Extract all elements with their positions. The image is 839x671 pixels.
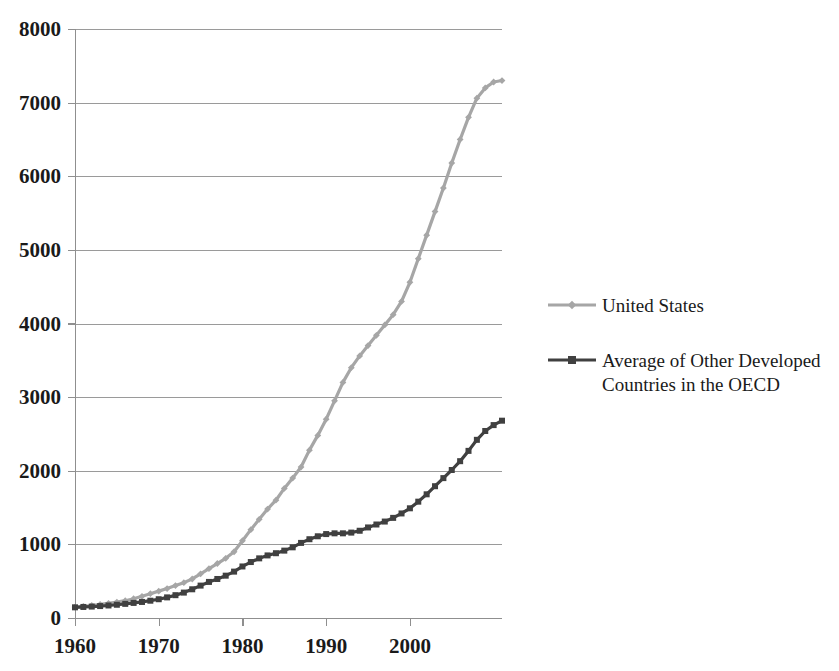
gridlines: [75, 30, 502, 545]
y-tick-label: 2000: [19, 459, 61, 483]
data-point-marker: [499, 418, 505, 424]
x-tick-label: 1990: [305, 634, 347, 658]
data-point-marker: [415, 499, 421, 505]
data-point-marker: [281, 548, 287, 554]
legend-item-united-states[interactable]: United States: [548, 295, 704, 316]
y-tick-label: 7000: [19, 91, 61, 115]
data-point-marker: [206, 579, 212, 585]
data-point-marker: [474, 437, 480, 443]
data-point-marker: [399, 510, 405, 516]
series-united-states: [72, 77, 506, 610]
data-point-marker: [499, 77, 506, 84]
data-point-marker: [189, 586, 195, 592]
data-point-marker: [214, 576, 220, 582]
legend-item-oecd-average[interactable]: Average of Other DevelopedCountries in t…: [548, 350, 821, 395]
data-point-marker: [139, 599, 145, 605]
data-point-marker: [265, 552, 271, 558]
data-point-marker: [223, 573, 229, 579]
legend-label: Countries in the OECD: [602, 374, 780, 395]
data-point-marker: [424, 491, 430, 497]
x-tick-label: 1980: [221, 634, 263, 658]
data-point-marker: [89, 604, 95, 610]
data-point-marker: [198, 583, 204, 589]
chart-legend: United StatesAverage of Other DevelopedC…: [548, 295, 821, 395]
legend-label: Average of Other Developed: [602, 350, 821, 371]
data-point-marker: [340, 530, 346, 536]
data-point-marker: [457, 458, 463, 464]
data-point-marker: [357, 528, 363, 534]
data-point-marker: [156, 596, 162, 602]
data-point-marker: [131, 600, 137, 606]
y-tick-label: 5000: [19, 238, 61, 262]
data-point-marker: [348, 530, 354, 536]
data-point-marker: [440, 475, 446, 481]
y-tick-label: 1000: [19, 532, 61, 556]
data-point-marker: [147, 598, 153, 604]
data-point-marker: [315, 533, 321, 539]
legend-swatch-marker: [568, 356, 576, 364]
data-point-marker: [105, 602, 111, 608]
y-tick-label: 8000: [19, 17, 61, 41]
series-line: [75, 81, 502, 608]
data-point-marker: [72, 604, 78, 610]
data-point-marker: [248, 559, 254, 565]
data-point-marker: [432, 483, 438, 489]
data-point-marker: [97, 603, 103, 609]
data-point-marker: [114, 602, 120, 608]
legend-swatch-marker: [568, 301, 576, 309]
data-point-marker: [256, 555, 262, 561]
data-point-marker: [181, 590, 187, 596]
data-point-marker: [365, 524, 371, 530]
data-point-marker: [290, 544, 296, 550]
data-point-marker: [407, 505, 413, 511]
data-point-marker: [466, 448, 472, 454]
y-axis-ticks: 010002000300040005000600070008000: [19, 17, 75, 630]
y-tick-label: 6000: [19, 164, 61, 188]
data-point-marker: [80, 604, 86, 610]
data-point-marker: [332, 530, 338, 536]
y-tick-label: 0: [51, 606, 62, 630]
x-axis-ticks: 19601970198019902000: [54, 618, 431, 658]
data-point-marker: [491, 422, 497, 428]
line-chart: 010002000300040005000600070008000 196019…: [0, 0, 839, 671]
data-series: [72, 77, 506, 610]
data-point-marker: [122, 601, 128, 607]
data-point-marker: [164, 594, 170, 600]
chart-page: 010002000300040005000600070008000 196019…: [0, 0, 839, 671]
data-point-marker: [390, 515, 396, 521]
data-point-marker: [449, 467, 455, 473]
data-point-marker: [231, 569, 237, 575]
x-tick-label: 1960: [54, 634, 96, 658]
data-point-marker: [239, 563, 245, 569]
data-point-marker: [172, 592, 178, 598]
data-point-marker: [306, 536, 312, 542]
y-tick-label: 3000: [19, 385, 61, 409]
legend-label: United States: [602, 295, 704, 316]
series-line: [75, 421, 502, 608]
data-point-marker: [382, 519, 388, 525]
x-tick-label: 1970: [138, 634, 180, 658]
series-oecd-average: [72, 418, 505, 611]
data-point-marker: [273, 550, 279, 556]
data-point-marker: [482, 428, 488, 434]
data-point-marker: [323, 531, 329, 537]
x-tick-label: 2000: [389, 634, 431, 658]
data-point-marker: [373, 522, 379, 528]
y-tick-label: 4000: [19, 312, 61, 336]
data-point-marker: [298, 540, 304, 546]
